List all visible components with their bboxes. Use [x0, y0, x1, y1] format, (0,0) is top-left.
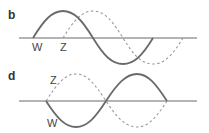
wave-label-w-b: W [32, 41, 43, 53]
wave-label-w-d: W [47, 117, 58, 129]
panel-label-b: b [8, 8, 15, 22]
wave-label-z-d: Z [50, 74, 57, 86]
wave-label-z-b: Z [60, 41, 67, 53]
panel-b: b W Z [8, 8, 197, 64]
panel-label-d: d [8, 69, 15, 83]
panel-d: d Z W [8, 69, 197, 129]
wave-diagram: b W Z d Z W [0, 0, 209, 133]
